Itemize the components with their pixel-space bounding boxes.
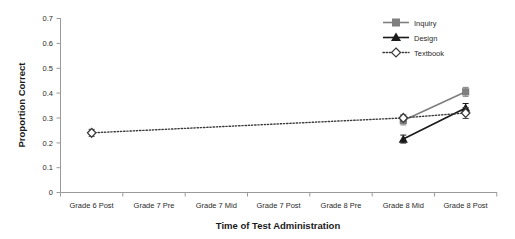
series-line-segment (92, 118, 404, 133)
chart-legend[interactable]: Inquiry Design Textbook (383, 19, 444, 58)
y-tick-label: 0.3 (43, 114, 53, 123)
x-axis-ticks (61, 193, 497, 197)
series-line-segment (403, 108, 465, 139)
chart-container: 0.7 0.6 0.5 0.4 0.3 0.2 0.1 0 Grade 6 Po… (0, 0, 515, 239)
x-tick-label-grade-7-mid: Grade 7 Mid (196, 201, 237, 210)
y-tick-label: 0.2 (43, 139, 53, 148)
series-line-segment (403, 92, 465, 121)
line-chart: 0.7 0.6 0.5 0.4 0.3 0.2 0.1 0 Grade 6 Po… (0, 0, 515, 239)
series-inquiry[interactable] (400, 87, 470, 125)
legend-entry-inquiry[interactable]: Inquiry (383, 19, 437, 28)
y-tick-label: 0 (49, 188, 53, 197)
y-tick-label: 0.6 (43, 39, 53, 48)
y-tick-label: 0.4 (43, 89, 53, 98)
x-tick-label-grade-8-pre: Grade 8 Pre (321, 201, 362, 210)
legend-entry-textbook[interactable]: Textbook (383, 48, 444, 58)
square-icon (392, 19, 400, 27)
x-tick-label-grade-8-mid: Grade 8 Mid (383, 201, 424, 210)
series-design[interactable] (399, 104, 471, 144)
diamond-icon (392, 48, 401, 57)
x-tick-label-grade-7-pre: Grade 7 Pre (134, 201, 175, 210)
y-axis-ticks (57, 19, 61, 193)
data-point-triangle[interactable] (399, 135, 408, 143)
legend-label-design: Design (414, 34, 437, 43)
x-tick-label-grade-6-post: Grade 6 Post (69, 201, 114, 210)
y-tick-label: 0.1 (43, 163, 53, 172)
series-textbook[interactable] (87, 107, 469, 137)
y-tick-label: 0.5 (43, 64, 53, 73)
x-axis-category-labels: Grade 6 Post Grade 7 Pre Grade 7 Mid Gra… (69, 201, 488, 210)
x-tick-label-grade-7-post: Grade 7 Post (256, 201, 301, 210)
y-tick-label: 0.7 (43, 14, 53, 23)
x-tick-label-grade-8-post: Grade 8 Post (443, 201, 488, 210)
legend-label-textbook: Textbook (414, 49, 444, 58)
y-axis-tick-labels: 0.7 0.6 0.5 0.4 0.3 0.2 0.1 0 (43, 14, 53, 197)
data-series-layer (87, 87, 470, 143)
data-point-square[interactable] (462, 88, 469, 95)
legend-entry-design[interactable]: Design (383, 33, 437, 43)
legend-label-inquiry: Inquiry (414, 19, 437, 28)
y-axis-title: Proportion Correct (16, 62, 27, 148)
x-axis-title: Time of Test Administration (216, 220, 341, 231)
